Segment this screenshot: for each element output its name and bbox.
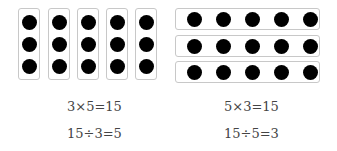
dot — [216, 39, 231, 54]
dot — [303, 12, 318, 27]
dot — [139, 15, 154, 30]
left-division-equation: 15÷3=5 — [67, 126, 122, 141]
dot — [81, 59, 96, 74]
dot — [81, 15, 96, 30]
column-group — [18, 8, 40, 80]
column-group — [135, 8, 157, 80]
dot — [110, 15, 125, 30]
dot — [303, 65, 318, 80]
column-group — [77, 8, 99, 80]
dot — [245, 12, 260, 27]
left-multiplication-equation: 3×5=15 — [67, 99, 122, 114]
dot — [274, 65, 289, 80]
dot — [52, 37, 67, 52]
dot — [216, 12, 231, 27]
row-group — [175, 35, 320, 57]
dot — [81, 37, 96, 52]
dot — [22, 59, 37, 74]
dot — [187, 39, 202, 54]
dot — [216, 65, 231, 80]
column-group — [48, 8, 70, 80]
dot — [52, 15, 67, 30]
row-group — [175, 61, 320, 83]
dot — [139, 37, 154, 52]
dot — [303, 39, 318, 54]
dot — [52, 59, 67, 74]
dot — [245, 65, 260, 80]
dot — [139, 59, 154, 74]
column-group — [106, 8, 128, 80]
dot — [245, 39, 260, 54]
right-multiplication-equation: 5×3=15 — [224, 99, 279, 114]
dot — [22, 15, 37, 30]
row-group — [175, 8, 320, 30]
dot — [187, 12, 202, 27]
dot — [274, 39, 289, 54]
dot — [274, 12, 289, 27]
dot — [22, 37, 37, 52]
right-division-equation: 15÷5=3 — [224, 126, 279, 141]
dot — [187, 65, 202, 80]
dot — [110, 59, 125, 74]
dot — [110, 37, 125, 52]
